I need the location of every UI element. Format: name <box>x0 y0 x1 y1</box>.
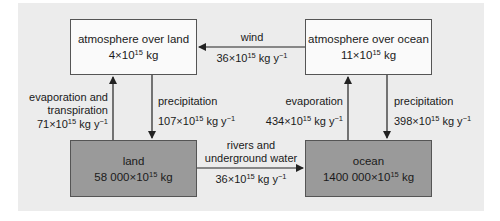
wind-label: wind <box>199 30 305 44</box>
rivers-label-2: underground water <box>197 151 305 165</box>
node-name: ocean <box>353 153 384 169</box>
evap-transp-value: 71×1015 kg y−1 <box>20 117 108 131</box>
precip-ocean-label: precipitation <box>394 94 453 108</box>
node-mass: 4×1015 kg <box>109 47 159 63</box>
node-name: atmosphere over land <box>78 31 189 47</box>
node-mass: 11×1015 kg <box>341 47 396 63</box>
evap-transp-label-2: transpiration <box>20 103 108 117</box>
evap-ocean-label: evaporation <box>250 94 343 108</box>
precip-ocean-value: 398×1015 kg y−1 <box>394 114 471 128</box>
rivers-label-1: rivers and <box>197 138 305 152</box>
node-mass: 58 000×1015 kg <box>94 169 172 185</box>
node-land: land 58 000×1015 kg <box>70 140 197 197</box>
node-name: atmosphere over ocean <box>308 31 429 47</box>
wind-value: 36×1015 kg y−1 <box>199 51 305 65</box>
node-name: land <box>123 153 145 169</box>
node-ocean: ocean 1400 000×1015 kg <box>305 140 432 197</box>
node-atmosphere-over-ocean: atmosphere over ocean 11×1015 kg <box>305 19 432 75</box>
evap-transp-label-1: evaporation and <box>20 90 108 104</box>
precip-land-value: 107×1015 kg y−1 <box>158 114 235 128</box>
node-mass: 1400 000×1015 kg <box>323 169 414 185</box>
rivers-value: 36×1015 kg y−1 <box>197 172 305 186</box>
node-atmosphere-over-land: atmosphere over land 4×1015 kg <box>70 19 197 75</box>
precip-land-label: precipitation <box>158 94 217 108</box>
evap-ocean-value: 434×1015 kg y−1 <box>250 114 343 128</box>
